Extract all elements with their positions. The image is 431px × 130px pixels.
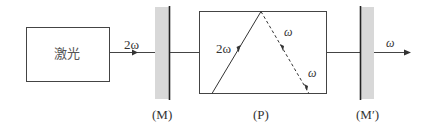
laser-box-label: 激光 (54, 47, 80, 60)
crystal-label: (P) (253, 108, 269, 121)
input-beam-label-text: 2ω (124, 37, 139, 52)
output-beam-label: ω (386, 37, 394, 49)
input-beam-label: 2ω (124, 38, 139, 51)
mirror-m-shade (155, 7, 169, 99)
reflected-beam-arrow-lower-icon (304, 84, 308, 91)
mirror-m-prime-shade (361, 7, 374, 99)
incident-beam-label: 2ω (216, 42, 231, 55)
reflected-beam-line (261, 12, 309, 94)
reflected-beam-label-lower: ω (308, 67, 316, 79)
reflected-beam-label-upper: ω (284, 26, 292, 38)
mirror-m-prime-label: (M′) (356, 108, 379, 121)
mirror-m-label: (M) (152, 108, 172, 121)
output-beam-arrow-icon (404, 50, 411, 56)
